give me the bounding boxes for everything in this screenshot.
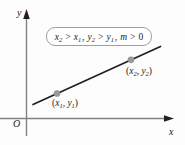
point1-x-subscript: 1 <box>59 102 62 109</box>
point2-y-var: y <box>141 66 145 76</box>
y-axis-arrowhead <box>23 9 30 19</box>
graph-canvas <box>0 0 185 145</box>
cond-gt-1: > <box>62 32 73 42</box>
x-axis-arrowhead <box>164 115 174 122</box>
line-graph-figure: y x O (x1, y1) (x2, y2) x2 > x1, y2 > y1… <box>0 0 185 145</box>
cond-gt-3: > <box>127 32 138 42</box>
point1-y-var: y <box>67 98 71 108</box>
cond-y1-subscript: 1 <box>111 36 114 43</box>
point1-label: (x1, y1) <box>52 99 78 109</box>
x-axis-label: x <box>169 127 173 137</box>
point1-marker <box>54 90 60 96</box>
point1-y-subscript: 1 <box>72 102 75 109</box>
point2-x-subscript: 2 <box>133 70 136 77</box>
condition-callout-box: x2 > x1, y2 > y1, m > 0 <box>46 27 152 46</box>
condition-text: x2 > x1, y2 > y1, m > 0 <box>55 32 144 42</box>
cond-gt-2: > <box>95 32 106 42</box>
point1-paren-close: ) <box>75 98 78 108</box>
point2-marker <box>128 57 134 63</box>
y-axis-label: y <box>17 8 21 18</box>
cond-x1-subscript: 1 <box>78 36 81 43</box>
point2-label: (x2, y2) <box>126 67 152 77</box>
cond-x2-subscript: 2 <box>59 36 62 43</box>
cond-y2-subscript: 2 <box>92 36 95 43</box>
point2-y-subscript: 2 <box>146 70 149 77</box>
point2-paren-close: ) <box>149 66 152 76</box>
origin-label: O <box>13 119 20 129</box>
cond-zero: 0 <box>139 32 144 42</box>
